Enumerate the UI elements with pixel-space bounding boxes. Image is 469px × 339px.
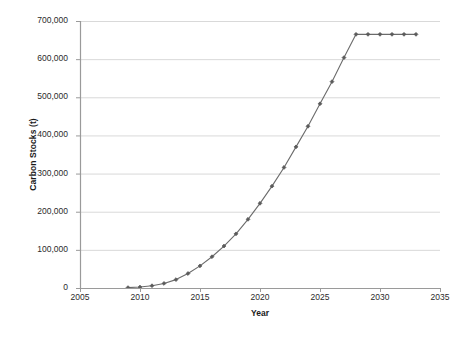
x-tick-label: 2015 [180,292,220,302]
x-tick-label: 2010 [120,292,160,302]
x-axis-tick-labels: 2005201020152020202520302035 [0,292,469,306]
x-axis-title: Year [80,308,440,318]
x-tick-label: 2030 [360,292,400,302]
x-tick-label: 2020 [240,292,280,302]
x-tick-label: 2035 [420,292,460,302]
x-tick-label: 2025 [300,292,340,302]
x-tick-label: 2005 [60,292,100,302]
axis-lines [0,0,469,339]
carbon-stocks-line-chart: Carbon Stocks (t) 0100,000200,000300,000… [0,0,469,339]
